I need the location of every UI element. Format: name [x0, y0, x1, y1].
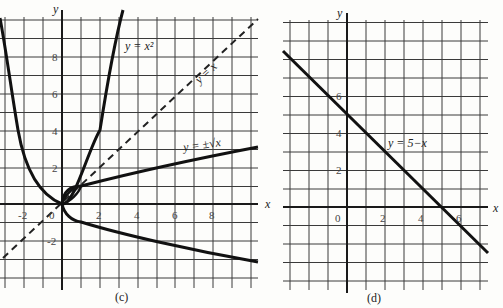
panel-c-tick-x-0: 0: [49, 209, 55, 221]
panel-c-label-x-squared: y = x²: [124, 39, 154, 53]
panel-c-y-axis-label: y: [52, 2, 59, 16]
panel-c-tick-y-4: 4: [52, 125, 58, 137]
panel-c: -2 0 2 4 6 8 8 6 4 2 -2 y x y = x² y = x…: [0, 2, 271, 304]
panel-c-tick-y-2: 2: [52, 162, 58, 174]
panel-d-tick-x-0: 0: [335, 212, 341, 224]
panel-d-x-axis-label: x: [492, 201, 499, 215]
panel-d-y-axis-label: y: [336, 6, 343, 20]
panel-c-curve-left-branch: [0, 18, 62, 204]
panel-c-label-sqrt: y = ±√x: [181, 135, 222, 154]
panel-d-tick-x-2: 2: [380, 212, 386, 224]
panel-c-tick-x-6: 6: [172, 209, 178, 221]
panel-d-tick-y-2: 2: [336, 164, 342, 176]
panel-c-tick-y-8: 8: [52, 51, 58, 63]
panel-c-caption: (c): [115, 290, 128, 304]
panel-d-caption: (d): [367, 291, 381, 305]
panel-c-tick-y-6: 6: [52, 88, 58, 100]
panel-d-label-5-minus-x: y = 5−x: [387, 136, 428, 150]
panel-d-grid: [283, 20, 488, 290]
panel-d-tick-x-6: 6: [456, 212, 462, 224]
panel-c-x-axis-label: x: [264, 197, 271, 211]
panel-c-label-y-equals-x: y = x: [191, 59, 220, 87]
panel-c-grid: [0, 17, 258, 288]
panel-d-tick-y-6: 6: [336, 90, 342, 102]
panel-d-tick-y-4: 4: [336, 127, 342, 139]
panel-c-tick-x-neg2: -2: [18, 209, 27, 221]
panel-d: 0 2 4 6 6 4 2 y x y = 5−x (d): [283, 6, 499, 305]
panel-c-tick-y-neg2: -2: [47, 235, 56, 247]
figure: -2 0 2 4 6 8 8 6 4 2 -2 y x y = x² y = x…: [0, 0, 503, 308]
panel-c-tick-x-2: 2: [96, 209, 102, 221]
panel-c-tick-x-4: 4: [134, 209, 140, 221]
panel-d-tick-x-4: 4: [418, 212, 424, 224]
panel-c-curve-sqrt-negative: [62, 204, 258, 262]
panel-c-tick-x-8: 8: [209, 209, 215, 221]
